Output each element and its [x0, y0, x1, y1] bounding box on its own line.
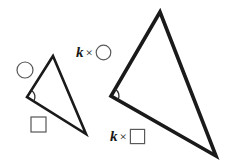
square-glyph-icon [129, 128, 146, 145]
label-k-square-operator: × [118, 129, 129, 144]
circle-marker-icon [17, 62, 33, 78]
label-circle-shape-icon [95, 44, 112, 64]
label-k-times-circle: k× [76, 44, 112, 64]
label-square-shape-icon [129, 128, 146, 148]
label-k-times-square: k× [110, 128, 146, 148]
square-marker-icon [31, 117, 46, 132]
geometry-diagram: k× k× [0, 0, 230, 163]
circle-glyph-icon [95, 44, 112, 61]
label-k-square-variable: k [110, 128, 118, 144]
small-triangle [27, 56, 86, 134]
label-k-circle-operator: × [84, 45, 95, 60]
label-k-circle-variable: k [76, 44, 84, 60]
small-triangle-group [27, 56, 86, 134]
